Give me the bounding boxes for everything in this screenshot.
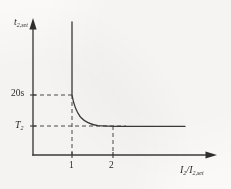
inverse-time-curve-figure: t2,set I2/I2,set 20s T2 1 2 [0,0,231,189]
x-axis-label-denominator-subscript: 2,set [192,170,203,176]
x-tick-label-1: 1 [69,161,74,171]
inverse-time-curve [72,22,185,126]
x-tick-label-2: 2 [109,161,114,171]
y-tick-label-t2-subscript: 2 [21,125,24,131]
y-tick-label-t2-main: T [15,119,21,130]
y-tick-label-t2: T2 [15,120,24,130]
x-axis-arrow-icon [206,151,218,158]
y-axis-label: t2,set [14,17,28,27]
x-axis-label-numerator-subscript: 2 [183,170,186,176]
y-axis-label-subscript: 2,set [17,22,28,28]
y-axis-arrow-icon [29,18,36,30]
x-axis-label: I2/I2,set [180,165,204,175]
y-tick-label-20s: 20s [11,89,24,99]
plot-canvas [0,0,231,189]
